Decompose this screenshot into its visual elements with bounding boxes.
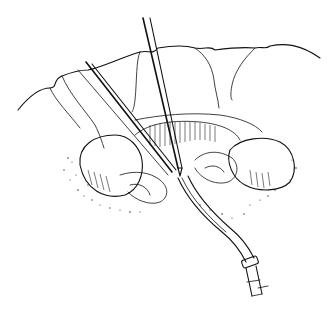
drainage-tube bbox=[178, 176, 254, 262]
forceps-instrument bbox=[78, 62, 176, 175]
ground-stipple bbox=[63, 157, 297, 218]
illustration-canvas bbox=[0, 0, 332, 313]
exposed-organ bbox=[80, 121, 294, 196]
surgical-illustration bbox=[0, 0, 332, 313]
tube-connector bbox=[241, 256, 268, 296]
